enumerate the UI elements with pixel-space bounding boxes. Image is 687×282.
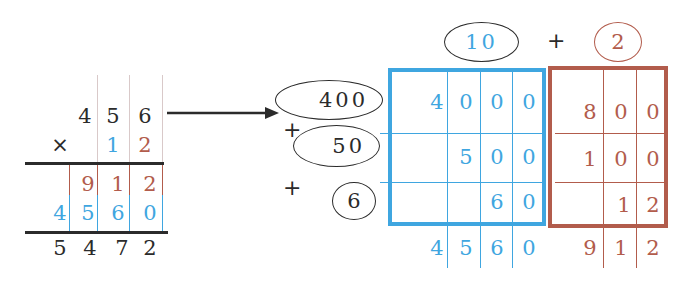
part-6-oval: 6 (332, 182, 376, 220)
grid-digit: 4 (425, 90, 449, 114)
ones-row-guide (162, 165, 163, 195)
partial-tens-digit: 4 (48, 201, 72, 225)
grid-digit: 0 (485, 90, 509, 114)
grid-digit: 0 (609, 147, 633, 171)
grid-digit: 0 (485, 145, 509, 169)
grid-sum-digit: 5 (454, 236, 478, 260)
grid-sum-digit: 4 (425, 236, 449, 260)
arrow-right-icon (165, 106, 280, 120)
grid-sum-digit: 9 (578, 236, 602, 260)
column-guide (162, 75, 163, 163)
partial-ones-digit: 1 (106, 172, 130, 196)
grid-digit: 1 (578, 147, 602, 171)
grid-digit: 0 (454, 90, 478, 114)
grid-sum-digit: 6 (485, 236, 509, 260)
column-divider (480, 70, 481, 268)
ones-row-guide (69, 165, 70, 195)
result-digit: 7 (110, 236, 134, 260)
grid-sum-digit: 2 (641, 236, 665, 260)
result-digit: 5 (48, 236, 72, 260)
grid-digit: 0 (609, 100, 633, 124)
column-guide (129, 75, 130, 163)
part-6: 6 (333, 189, 375, 213)
part-50: 50 (294, 134, 379, 158)
grid-sum-digit: 1 (609, 236, 633, 260)
part-400-oval: 400 (275, 80, 383, 120)
partial-tens-digit: 6 (106, 201, 130, 225)
multiplicand-digit: 5 (101, 104, 125, 128)
column-divider (636, 68, 637, 268)
grid-digit: 0 (517, 145, 541, 169)
column-divider (512, 70, 513, 268)
grid-digit: 5 (454, 145, 478, 169)
grid-digit: 8 (578, 100, 602, 124)
row-divider (380, 182, 544, 183)
row-divider (555, 133, 666, 134)
grid-digit: 0 (641, 100, 665, 124)
plus-sign: + (547, 28, 565, 53)
result-digit: 4 (78, 236, 102, 260)
row-divider (380, 133, 544, 134)
grid-digit: 0 (517, 90, 541, 114)
part-50-oval: 50 (293, 125, 380, 167)
grid-digit: 1 (612, 193, 636, 217)
tens-multiplier-oval: 10 (444, 22, 519, 62)
part-400: 400 (276, 88, 382, 112)
grid-sum-digit: 0 (517, 236, 541, 260)
multiplier-ones-digit: 2 (133, 133, 157, 157)
partial-ones-digit: 2 (138, 172, 162, 196)
times-operator: × (48, 133, 72, 157)
partial-ones-digit: 9 (76, 172, 100, 196)
sum-rule (25, 231, 168, 234)
grid-digit: 0 (517, 190, 541, 214)
multiplier-tens-digit: 1 (101, 133, 125, 157)
multiplicand-digit: 4 (73, 104, 97, 128)
multiplicand-digit: 6 (133, 104, 157, 128)
grid-digit: 0 (641, 147, 665, 171)
partial-tens-digit: 5 (76, 201, 100, 225)
tens-row-guide (162, 195, 163, 232)
grid-digit: 6 (485, 190, 509, 214)
grid-digit: 2 (641, 193, 665, 217)
plus-sign: + (283, 175, 301, 200)
tens-multiplier: 10 (445, 30, 518, 54)
ones-multiplier: 2 (595, 30, 641, 54)
column-guide (97, 75, 98, 163)
column-divider (603, 68, 604, 268)
ones-multiplier-oval: 2 (594, 22, 642, 62)
row-divider (555, 182, 666, 183)
product-rule (25, 162, 164, 165)
partial-tens-digit: 0 (138, 201, 162, 225)
result-digit: 2 (138, 236, 162, 260)
